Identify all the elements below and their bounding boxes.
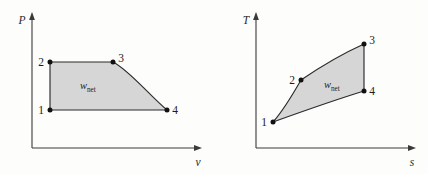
pv-state-dot-2 (48, 60, 53, 65)
ts-state-label-4: 4 (369, 85, 375, 97)
pv-state-label-2: 2 (38, 56, 44, 68)
pv-work-subscript: net (87, 86, 96, 94)
figure-canvas: 1 2 3 4 w net P v (0, 0, 428, 174)
pv-state-dot-3 (111, 60, 116, 65)
ts-y-axis (253, 12, 259, 148)
pv-state-label-1: 1 (38, 104, 44, 116)
pv-y-axis-label: P (17, 14, 25, 26)
pressure-volume-diagram: 1 2 3 4 w net P v (0, 0, 214, 174)
ts-state-dot-3 (362, 42, 367, 47)
pv-net-work-region (50, 62, 167, 110)
pv-state-dot-1 (48, 108, 53, 113)
ts-state-dot-4 (362, 89, 367, 94)
ts-state-label-2: 2 (289, 74, 295, 86)
pv-x-axis (32, 145, 202, 151)
pv-state-label-3: 3 (118, 52, 124, 64)
pv-work-symbol: w (80, 80, 87, 91)
ts-state-label-3: 3 (369, 34, 375, 46)
pv-state-dot-4 (165, 108, 170, 113)
ts-state-dot-2 (299, 78, 304, 83)
pv-x-axis-label: v (195, 156, 201, 168)
ts-work-subscript: net (331, 85, 340, 93)
pv-state-label-4: 4 (172, 104, 178, 116)
ts-x-axis-label: s (410, 156, 415, 168)
ts-y-axis-label: T (243, 14, 251, 26)
pv-y-axis (29, 12, 35, 148)
temperature-entropy-diagram: 1 2 3 4 w net T s (214, 0, 428, 174)
ts-x-axis (256, 145, 416, 151)
ts-net-work-region (273, 44, 364, 122)
ts-state-label-1: 1 (261, 116, 267, 128)
ts-state-dot-1 (271, 120, 276, 125)
ts-work-symbol: w (324, 79, 331, 90)
